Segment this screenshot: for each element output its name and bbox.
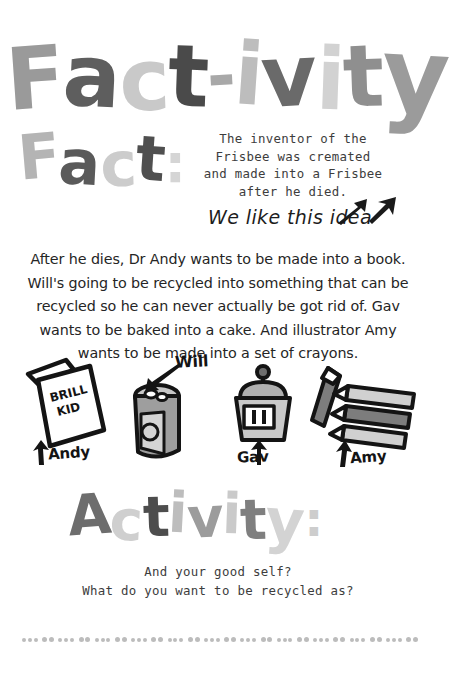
divider-dot [58,638,62,642]
heading-letter: t [134,130,166,188]
heading-letter: c [100,136,138,193]
divider-dot [42,637,47,642]
divider-dot [355,638,359,642]
title-letter: c [118,41,170,120]
divider-dot [297,637,302,642]
heading-letter: y [264,493,306,550]
divider-dot [288,638,292,642]
heading-letter: t [240,495,268,546]
divider-dot [158,637,163,642]
fact-text-line: The inventor of the [188,130,398,148]
divider-dot [22,638,26,642]
divider-dot [179,638,183,642]
divider-dot [79,637,84,642]
divider-dot [283,638,287,642]
divider-dot [210,638,214,642]
illustration-label-will: Will [175,351,209,372]
divider-dot [413,637,418,642]
divider-dot [398,638,402,642]
title-letter: i [314,41,344,119]
divider-dot [319,638,323,642]
divider-dot [49,637,54,642]
title-letter: y [379,28,450,125]
divider-dot [261,637,266,642]
divider-dot [95,638,99,642]
illustration-label-amy: Amy [349,447,387,467]
divider-dot [216,638,220,642]
activity-question-line: And your good self? [48,562,388,581]
illustration-label-andy: Andy [47,443,90,464]
divider-dot [406,637,411,642]
heading-letter: a [58,134,102,192]
divider-dot [106,638,110,642]
heading-letter: A [66,489,112,542]
page-title-factivity: Fact-ivity [6,24,448,126]
heading-letter: F [16,127,62,186]
cupcake-icon [228,364,298,444]
divider-dot [70,638,74,642]
fact-text-line: and made into a Frisbee [188,165,398,183]
divider-dot [240,638,244,642]
divider-dot [252,638,256,642]
title-letter: t [342,37,384,116]
divider-dot [195,637,200,642]
title-letter: v [259,37,317,117]
divider-dot [370,637,375,642]
divider-dot [361,638,365,642]
divider-dot [151,637,156,642]
divider-dot [122,637,127,642]
dotted-divider [22,636,414,646]
divider-dot [313,638,317,642]
divider-dot [350,638,354,642]
divider-dot [231,637,236,642]
heading-letter: v [185,492,223,544]
fact-text-line: Frisbee was cremated [188,148,398,166]
divider-dot [131,638,135,642]
divider-dot [246,638,250,642]
title-letter: - [205,44,235,108]
heading-letter: i [221,489,241,540]
divider-dot [143,638,147,642]
divider-dot [386,638,390,642]
heading-letter: t [142,492,170,543]
divider-dot [277,638,281,642]
divider-dot [85,637,90,642]
divider-dot [204,638,208,642]
heading-letter: : [304,498,322,541]
divider-dot [333,637,338,642]
divider-dot [101,638,105,642]
illustrations-row: BRILL KID Andy Will [0,348,435,484]
divider-dot [188,637,193,642]
divider-dot [34,638,38,642]
activity-question-line: What do you want to be recycled as? [48,581,388,600]
fact-heading: Fact: [18,120,185,193]
heading-letter: c [109,495,144,547]
book-icon: BRILL KID [18,354,118,454]
divider-dot [64,638,68,642]
divider-dot [115,637,120,642]
divider-dot [377,637,382,642]
divider-dot [325,638,329,642]
divider-dot [168,638,172,642]
heading-letter: i [167,488,188,539]
title-letter: a [61,37,121,117]
divider-dot [28,638,32,642]
divider-dot [137,638,141,642]
divider-dot [340,637,345,642]
activity-question-block: And your good self? What do you want to … [48,562,388,600]
illustration-label-gav: Gav [237,447,269,466]
crayons-icon [306,362,424,454]
divider-dot [224,637,229,642]
title-letter: t [166,37,208,116]
divider-dot [267,637,272,642]
fact-text-block: The inventor of the Frisbee was cremated… [188,130,398,200]
heading-letter: : [165,140,186,189]
divider-dot [392,638,396,642]
title-letter: F [4,38,66,119]
divider-dot [304,637,309,642]
divider-dot [173,638,177,642]
annotation-arrows-icon [336,196,404,230]
activity-heading: Activity: [68,482,322,547]
